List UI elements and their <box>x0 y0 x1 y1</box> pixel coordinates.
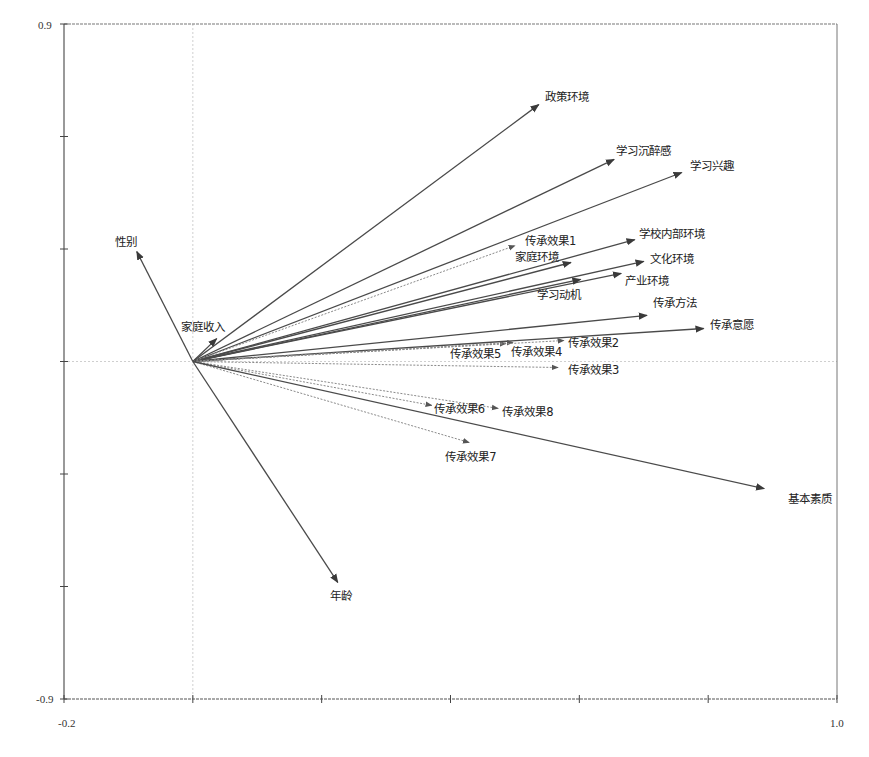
arrow-label: 学习沉醉感 <box>616 144 671 158</box>
arrow-vector <box>193 173 682 362</box>
arrow-label: 传承方法 <box>653 296 697 310</box>
arrow-label: 学习动机 <box>537 288 582 302</box>
arrow-label: 基本素质 <box>788 492 832 506</box>
y-min-label: -0.9 <box>36 693 54 705</box>
arrow-label: 传承效果8 <box>502 405 553 419</box>
arrow-vector <box>193 362 558 368</box>
arrow-label: 学习兴趣 <box>690 159 735 173</box>
arrow-label: 传承意愿 <box>710 318 754 332</box>
arrow-label: 家庭环境 <box>515 250 559 264</box>
arrows-layer <box>137 105 764 583</box>
arrow-vector <box>193 362 764 489</box>
y-max-label: 0.9 <box>38 19 52 31</box>
arrow-label: 传承效果1 <box>525 234 576 248</box>
arrow-vector <box>137 252 193 362</box>
biplot-chart: 0.9 -0.9 -0.2 1.0 性别家庭收入政策环境学习沉醉感学习兴趣学校内… <box>0 0 869 757</box>
arrow-label: 家庭收入 <box>181 320 226 334</box>
arrow-label: 文化环境 <box>650 252 694 266</box>
arrow-vector <box>193 362 432 406</box>
axis-ticks <box>60 24 837 703</box>
arrow-label: 学校内部环境 <box>639 227 705 241</box>
arrow-label: 性别 <box>115 235 137 249</box>
arrow-label: 产业环境 <box>625 274 669 288</box>
x-min-label: -0.2 <box>58 717 75 729</box>
zero-lines <box>64 24 837 699</box>
arrow-vector <box>193 362 338 583</box>
arrow-label: 年龄 <box>330 589 353 603</box>
x-max-label: 1.0 <box>830 717 844 729</box>
arrow-vector <box>193 362 498 409</box>
arrow-label: 传承效果4 <box>511 345 562 359</box>
arrow-label: 政策环境 <box>545 90 589 104</box>
labels-layer: 性别家庭收入政策环境学习沉醉感学习兴趣学校内部环境文化环境产业环境学习动机家庭环… <box>115 90 832 604</box>
arrow-label: 传承效果2 <box>568 336 619 350</box>
arrow-vector <box>193 362 469 443</box>
arrow-label: 传承效果5 <box>450 347 501 361</box>
arrow-label: 传承效果7 <box>445 450 496 464</box>
arrow-label: 传承效果6 <box>434 402 485 416</box>
arrow-label: 传承效果3 <box>568 363 619 377</box>
